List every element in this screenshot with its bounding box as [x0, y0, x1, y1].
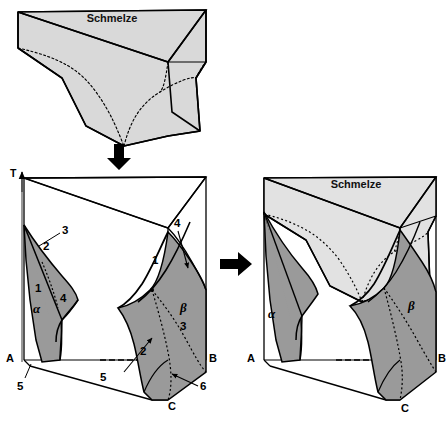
melt-label-top: Schmelze: [87, 12, 138, 24]
melt-label-combined: Schmelze: [331, 178, 382, 190]
beta-phase-label: β: [179, 300, 187, 315]
figure-root: Schmelze T: [0, 0, 447, 426]
prism-top-back-edge: [24, 177, 206, 178]
leader-number-5-right: 5: [100, 371, 107, 383]
alpha-number-4: 4: [60, 292, 67, 304]
combined-beta-label: β: [407, 298, 415, 313]
corner-label-a-left: A: [6, 352, 14, 364]
beta-number-4: 4: [174, 217, 181, 229]
alpha-number-1: 1: [35, 282, 42, 294]
combined-alpha-label: α: [268, 306, 276, 321]
phase-diagram-svg: Schmelze T: [0, 0, 447, 426]
temperature-axis-label: T: [10, 167, 17, 179]
corner-label-b-left: B: [209, 352, 217, 364]
alpha-number-3: 3: [62, 224, 68, 236]
beta-number-3: 3: [180, 320, 186, 332]
corner-label-a-right: A: [247, 352, 255, 364]
corner-label-b-right: B: [438, 352, 446, 364]
beta-number-1: 1: [152, 254, 159, 266]
leader-number-6: 6: [200, 380, 206, 392]
leader-number-5-left: 5: [17, 380, 24, 392]
beta-node-point: [150, 288, 154, 292]
alpha-phase-label: α: [33, 301, 41, 316]
corner-label-c-left: C: [168, 400, 176, 412]
corner-label-c-right: C: [401, 402, 409, 414]
